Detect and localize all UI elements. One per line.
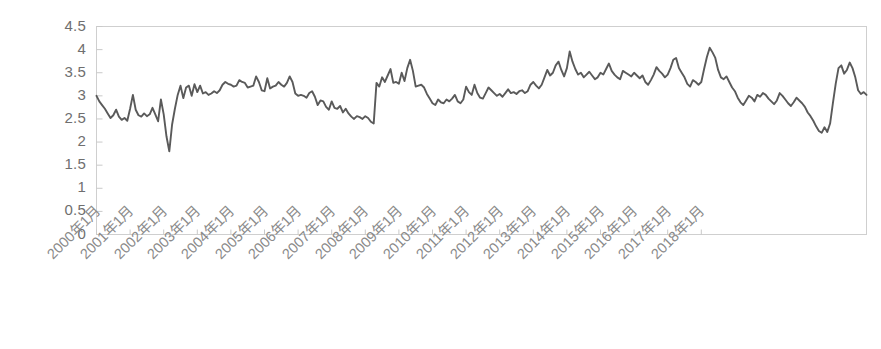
y-tick-label: 2.5 xyxy=(30,109,86,126)
plot-area xyxy=(0,0,881,349)
line-chart: 4.543.532.521.510.50 2000年1月2001年1月2002年… xyxy=(0,0,881,349)
y-tick-label: 1 xyxy=(30,178,86,195)
y-tick-label: 4.5 xyxy=(30,17,86,34)
y-tick-label: 3 xyxy=(30,86,86,103)
y-tick-label: 3.5 xyxy=(30,63,86,80)
y-tick-label: 1.5 xyxy=(30,155,86,172)
plot-frame xyxy=(97,27,867,235)
y-tick-label: 4 xyxy=(30,40,86,57)
y-tick-label: 2 xyxy=(30,132,86,149)
